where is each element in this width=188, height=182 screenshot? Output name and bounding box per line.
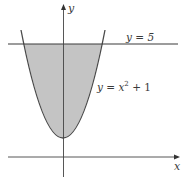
y-axis-arrow-icon — [61, 4, 66, 10]
x-axis-arrow-icon — [174, 155, 180, 160]
parabola-label-suffix: + 1 — [129, 81, 151, 93]
line-label: y = 5 — [125, 31, 154, 43]
shaded-region — [25, 44, 102, 138]
y-axis-label: y — [67, 2, 75, 15]
x-axis-label: x — [174, 160, 181, 173]
parabola-label-prefix: y = x — [96, 81, 124, 93]
diagram-canvas: y x y = 5 y = x2 + 1 — [0, 0, 188, 182]
parabola-label: y = x2 + 1 — [96, 80, 151, 93]
